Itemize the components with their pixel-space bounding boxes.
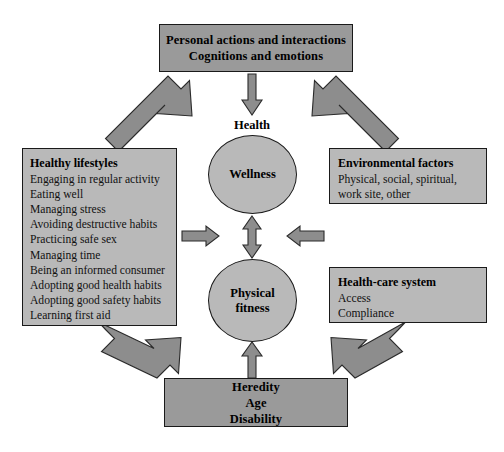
environment-item-2: work site, other — [338, 187, 486, 202]
fitness-label-line-1: Physical — [230, 286, 274, 301]
node-health-care-system[interactable]: Health-care system Access Compliance — [329, 267, 487, 323]
healthcare-heading: Health-care system — [338, 275, 486, 291]
environment-heading: Environmental factors — [338, 156, 486, 172]
lifestyles-item-4: Avoiding destructive habits — [30, 217, 176, 232]
heredity-line-2: Age — [245, 395, 266, 411]
wellness-label: Wellness — [229, 167, 276, 182]
node-environmental-factors[interactable]: Environmental factors Physical, social, … — [329, 148, 487, 204]
personal-line-2: Cognitions and emotions — [189, 48, 323, 64]
healthcare-item-1: Access — [338, 291, 486, 306]
arrow-personal-to-health — [242, 74, 262, 115]
arrow-environment-to-center — [287, 226, 324, 246]
lifestyles-heading: Healthy lifestyles — [30, 156, 176, 172]
healthcare-item-2: Compliance — [338, 306, 486, 321]
node-physical-fitness-circle[interactable]: Physical fitness — [208, 259, 297, 342]
arrow-lifestyles-to-heredity — [99, 322, 182, 378]
lifestyles-item-6: Managing time — [30, 248, 176, 263]
environment-item-1: Physical, social, spiritual, — [338, 172, 486, 187]
lifestyles-item-1: Engaging in regular activity — [30, 172, 176, 187]
arrow-healthcare-to-heredity — [331, 322, 406, 378]
node-healthy-lifestyles[interactable]: Healthy lifestyles Engaging in regular a… — [22, 148, 177, 326]
label-health: Health — [0, 118, 504, 133]
lifestyles-item-7: Being an informed consumer — [30, 263, 176, 278]
heredity-line-1: Heredity — [232, 379, 280, 395]
lifestyles-item-5: Practicing safe sex — [30, 232, 176, 247]
node-wellness-circle[interactable]: Wellness — [208, 135, 297, 214]
node-personal-actions[interactable]: Personal actions and interactions Cognit… — [159, 24, 353, 72]
lifestyles-item-8: Adopting good health habits — [30, 278, 176, 293]
arrow-wellness-to-fitness — [243, 216, 261, 258]
heredity-line-3: Disability — [230, 411, 282, 427]
node-heredity[interactable]: Heredity Age Disability — [164, 378, 348, 427]
lifestyles-item-2: Eating well — [30, 187, 176, 202]
lifestyles-item-3: Managing stress — [30, 202, 176, 217]
arrow-lifestyles-to-center — [182, 226, 219, 246]
personal-line-1: Personal actions and interactions — [166, 32, 346, 48]
fitness-label-line-2: fitness — [230, 301, 274, 316]
lifestyles-item-10: Learning first aid — [30, 308, 176, 323]
diagram-canvas: Personal actions and interactions Cognit… — [0, 0, 504, 452]
lifestyles-item-9: Adopting good safety habits — [30, 293, 176, 308]
arrow-heredity-to-fitness — [242, 342, 262, 378]
